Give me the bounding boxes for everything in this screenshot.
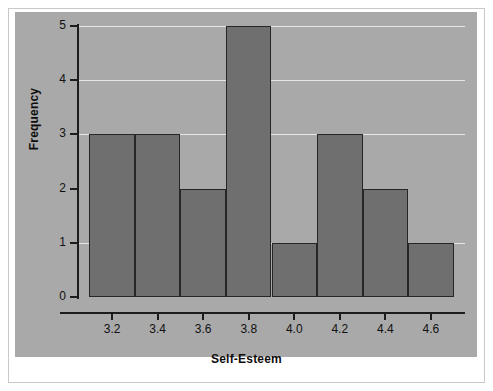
x-tick-label: 4.6 xyxy=(411,322,451,336)
y-tick-mark xyxy=(70,242,77,244)
x-axis-line xyxy=(60,312,465,314)
x-tick-mark xyxy=(157,312,159,320)
y-tick-mark xyxy=(70,133,77,135)
y-tick-label: 4 xyxy=(44,72,66,86)
x-tick-label: 4.0 xyxy=(274,322,314,336)
y-tick-label: 2 xyxy=(44,181,66,195)
histogram-bar xyxy=(89,134,135,297)
x-tick-mark xyxy=(384,312,386,320)
x-tick-mark xyxy=(111,312,113,320)
x-axis-label: Self-Esteem xyxy=(0,352,493,366)
x-tick-mark xyxy=(202,312,204,320)
histogram-bar xyxy=(317,134,363,297)
y-tick-label: 3 xyxy=(44,126,66,140)
x-tick-label: 3.4 xyxy=(138,322,178,336)
y-tick-label: 5 xyxy=(44,18,66,32)
y-tick-label: 0 xyxy=(44,289,66,303)
x-tick-label: 3.8 xyxy=(229,322,269,336)
x-tick-mark xyxy=(293,312,295,320)
x-tick-label: 3.6 xyxy=(183,322,223,336)
y-tick-mark xyxy=(70,296,77,298)
y-axis-label: Frequency xyxy=(27,49,41,189)
x-tick-mark xyxy=(430,312,432,320)
x-tick-label: 4.4 xyxy=(365,322,405,336)
x-tick-label: 4.2 xyxy=(320,322,360,336)
histogram-bar xyxy=(226,26,272,297)
histogram-bar xyxy=(135,134,181,297)
histogram-bar xyxy=(408,243,454,297)
histogram-figure: 012345 3.23.43.63.84.04.24.44.6 Self-Est… xyxy=(0,0,493,391)
bar-series xyxy=(78,26,465,297)
histogram-bar xyxy=(363,189,409,297)
y-tick-mark xyxy=(70,188,77,190)
y-axis-line xyxy=(77,24,79,299)
y-tick-mark xyxy=(70,25,77,27)
plot-panel xyxy=(78,26,465,297)
x-tick-label: 3.2 xyxy=(92,322,132,336)
y-tick-label: 1 xyxy=(44,235,66,249)
x-tick-mark xyxy=(248,312,250,320)
histogram-bar xyxy=(180,189,226,297)
histogram-bar xyxy=(272,243,318,297)
y-tick-mark xyxy=(70,79,77,81)
x-tick-mark xyxy=(339,312,341,320)
